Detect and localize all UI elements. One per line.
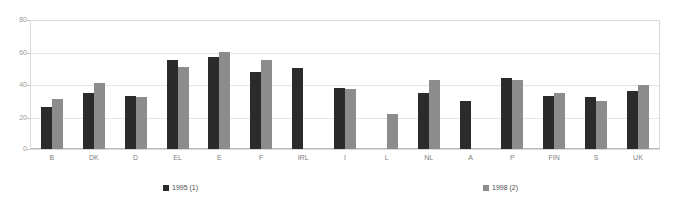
bar-group [491,20,533,149]
y-axis-tick-label: 20 [3,114,27,122]
bar [429,80,440,149]
bar [167,60,178,149]
bar [83,93,94,149]
x-axis-category-label: I [324,152,366,166]
bar-group [617,20,659,149]
y-axis-labels: 80 60 40 20 0 [0,20,27,150]
bar [292,68,303,149]
bar [418,93,429,149]
bar-chart: 80 60 40 20 0 BDKDELEFIRLILNLAPFINSUK 19… [0,0,678,207]
bar [219,52,230,149]
bar [208,57,219,149]
bar-group [408,20,450,149]
bar-group [198,20,240,149]
bar [596,101,607,149]
bar [261,60,272,149]
bar-group [282,20,324,149]
bar [512,80,523,149]
y-axis-tick-label: 0 [3,145,27,153]
chart-legend: 1995 (1) 1998 (2) [0,183,678,199]
bar-group [533,20,575,149]
bar [627,91,638,149]
x-axis-category-label: A [450,152,492,166]
y-axis-tick-label: 80 [3,16,27,24]
bar-group [240,20,282,149]
y-axis-tick-label: 40 [3,81,27,89]
x-axis-category-label: E [198,152,240,166]
bar [460,101,471,149]
legend-item-1998[interactable]: 1998 (2) [483,183,518,193]
bar [41,107,52,149]
x-axis-category-label: F [240,152,282,166]
bar-group [324,20,366,149]
bar [543,96,554,149]
x-axis-category-label: L [366,152,408,166]
series-2-swatch-icon [483,185,489,191]
bar [638,85,649,150]
x-axis-category-label: NL [408,152,450,166]
x-axis-category-label: EL [157,152,199,166]
bar [554,93,565,149]
legend-item-1995[interactable]: 1995 (1) [163,183,198,193]
series-1-swatch-icon [163,185,169,191]
x-axis-category-label: UK [617,152,659,166]
bar [178,67,189,149]
bar [250,72,261,149]
x-axis-category-label: FIN [533,152,575,166]
bar-group [73,20,115,149]
bar [136,97,147,149]
bars-container [31,20,659,149]
x-axis-category-label: S [575,152,617,166]
legend-label: 1995 (1) [172,183,198,193]
bar-group [115,20,157,149]
x-axis-category-label: D [115,152,157,166]
y-axis-tick-label: 60 [3,49,27,57]
bar-group [157,20,199,149]
bar-group [450,20,492,149]
bar [52,99,63,149]
bar [387,114,398,149]
x-axis-category-label: P [491,152,533,166]
bar-group [366,20,408,149]
bar [501,78,512,149]
x-axis-category-label: DK [73,152,115,166]
legend-label: 1998 (2) [492,183,518,193]
bar [585,97,596,149]
bar [125,96,136,149]
bar-group [31,20,73,149]
bar-group [575,20,617,149]
bar [334,88,345,149]
x-axis-category-label: B [31,152,73,166]
bar [345,89,356,149]
x-axis-labels: BDKDELEFIRLILNLAPFINSUK [31,152,659,166]
bar [94,83,105,149]
x-axis-category-label: IRL [282,152,324,166]
